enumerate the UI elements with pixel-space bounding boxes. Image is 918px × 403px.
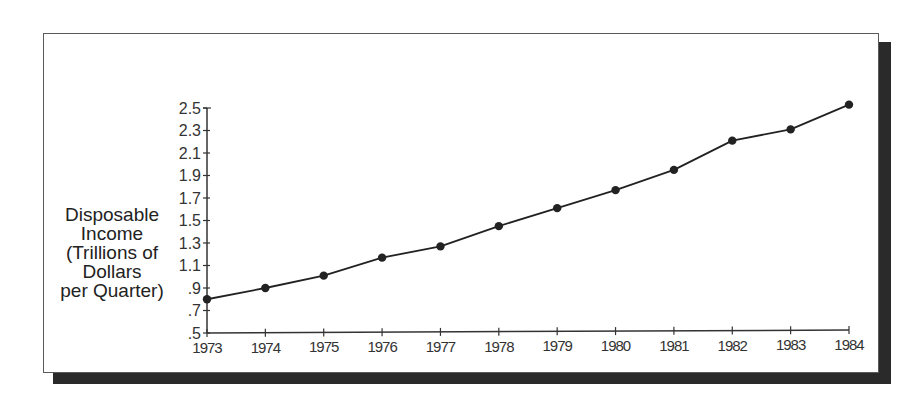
y-tick-label: .7 — [188, 302, 201, 319]
y-tick-label: .9 — [188, 280, 201, 297]
x-tick-label: 1976 — [367, 338, 397, 355]
series-line — [207, 105, 849, 300]
data-point-marker — [845, 100, 853, 108]
x-tick-label: 1978 — [484, 338, 514, 355]
x-tick-label: 1981 — [659, 337, 689, 354]
x-tick-label: 1974 — [251, 339, 281, 356]
y-tick-label: 1.3 — [179, 235, 201, 252]
x-tick-label: 1983 — [776, 336, 806, 353]
y-tick-label: 1.1 — [179, 257, 201, 274]
x-tick-label: 1977 — [426, 338, 456, 355]
data-point-marker — [261, 284, 269, 292]
data-series — [203, 100, 853, 303]
line-chart: .5.7.91.11.31.51.71.92.12.32.5 197319741… — [0, 0, 918, 403]
y-tick-label: 1.5 — [179, 212, 201, 229]
data-point-marker — [203, 295, 211, 303]
y-tick-label: 2.1 — [179, 145, 201, 162]
x-axis: 1973197419751976197719781979198019811982… — [192, 326, 864, 356]
data-point-marker — [320, 271, 328, 279]
data-point-marker — [786, 125, 794, 133]
x-tick-label: 1973 — [192, 339, 222, 356]
y-axis: .5.7.91.11.31.51.71.92.12.32.5 — [179, 100, 211, 342]
data-point-marker — [495, 222, 503, 230]
data-point-marker — [670, 166, 678, 174]
x-tick-label: 1979 — [542, 337, 572, 354]
data-point-marker — [553, 204, 561, 212]
x-tick-label: 1984 — [834, 336, 864, 353]
y-tick-label: 2.5 — [179, 100, 201, 117]
y-tick-label: 1.7 — [179, 190, 201, 207]
data-point-marker — [728, 136, 736, 144]
data-point-marker — [378, 253, 386, 261]
y-tick-label: 2.3 — [179, 122, 201, 139]
y-tick-label: 1.9 — [179, 167, 201, 184]
x-tick-label: 1975 — [309, 338, 339, 355]
data-point-marker — [611, 186, 619, 194]
data-point-marker — [436, 242, 444, 250]
x-tick-label: 1980 — [601, 337, 631, 354]
x-tick-label: 1982 — [718, 337, 748, 354]
